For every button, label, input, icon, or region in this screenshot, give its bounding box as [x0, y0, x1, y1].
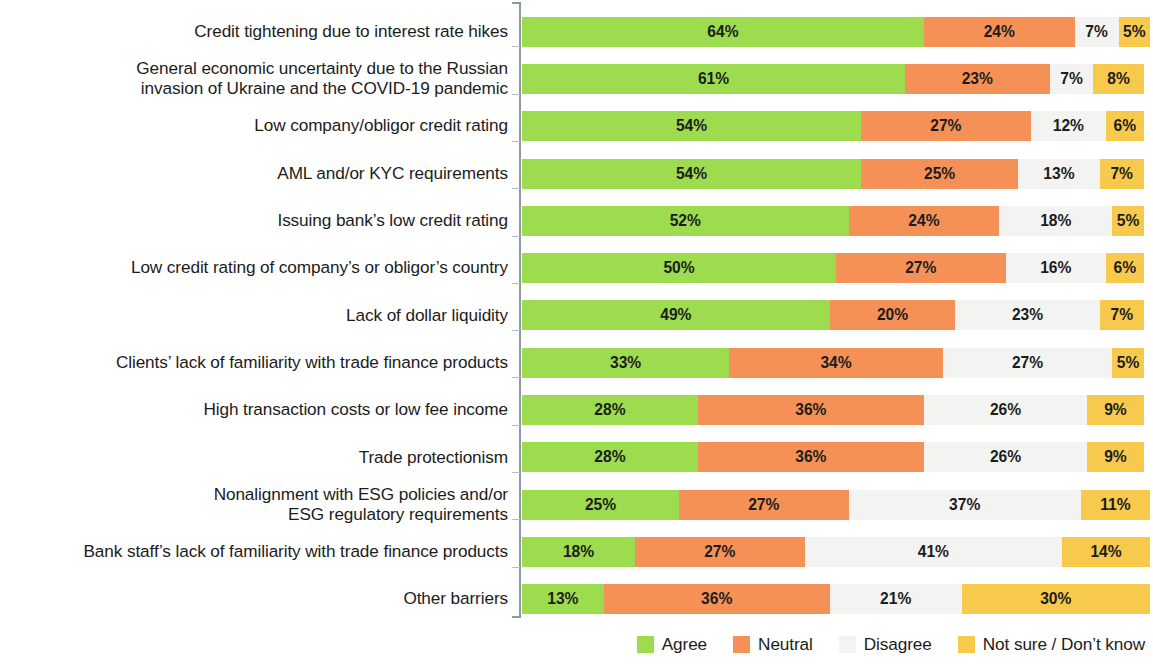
segment-value-label: 9%	[1104, 448, 1127, 466]
segment-value-label: 11%	[1100, 496, 1130, 514]
segment-value-label: 5%	[1117, 354, 1140, 372]
bar-segment-agree: 25%	[522, 490, 679, 520]
segment-value-label: 25%	[585, 496, 616, 514]
chart-row: Low company/obligor credit rating54%27%1…	[0, 103, 1153, 150]
bar-segment-not-sure-don-t-know: 5%	[1112, 206, 1143, 236]
segment-value-label: 8%	[1107, 70, 1130, 88]
segment-value-label: 18%	[563, 543, 594, 561]
segment-value-label: 13%	[547, 590, 578, 608]
chart-row: General economic uncertainty due to the …	[0, 55, 1153, 102]
category-label: Credit tightening due to interest rate h…	[10, 22, 508, 42]
segment-value-label: 9%	[1104, 401, 1127, 419]
segment-value-label: 27%	[704, 543, 735, 561]
stacked-bar: 13%36%21%30%	[522, 584, 1150, 614]
segment-value-label: 26%	[990, 401, 1021, 419]
segment-value-label: 37%	[949, 496, 980, 514]
bar-segment-not-sure-don-t-know: 14%	[1062, 537, 1150, 567]
square-swatch-icon	[733, 636, 750, 653]
segment-value-label: 41%	[918, 543, 949, 561]
legend-label: Agree	[662, 634, 707, 655]
bar-segment-disagree: 16%	[1006, 253, 1106, 283]
segment-value-label: 27%	[748, 496, 779, 514]
bar-segment-disagree: 21%	[830, 584, 962, 614]
bar-segment-disagree: 12%	[1031, 111, 1106, 141]
chart-row: Other barriers13%36%21%30%	[0, 576, 1153, 623]
bar-segment-agree: 18%	[522, 537, 635, 567]
segment-value-label: 24%	[908, 212, 939, 230]
chart-row: Low credit rating of company’s or obligo…	[0, 245, 1153, 292]
segment-value-label: 30%	[1040, 590, 1071, 608]
bar-segment-neutral: 27%	[679, 490, 849, 520]
bar-segment-neutral: 36%	[698, 395, 924, 425]
segment-value-label: 54%	[676, 117, 707, 135]
segment-value-label: 7%	[1085, 23, 1108, 41]
category-label: General economic uncertainty due to the …	[10, 59, 508, 98]
segment-value-label: 52%	[670, 212, 701, 230]
axis-tick	[512, 519, 520, 520]
bar-segment-agree: 28%	[522, 395, 698, 425]
axis-tick	[512, 283, 520, 284]
bar-segment-neutral: 27%	[861, 111, 1031, 141]
category-label: Lack of dollar liquidity	[10, 306, 508, 326]
segment-value-label: 27%	[930, 117, 961, 135]
bar-segment-agree: 33%	[522, 348, 729, 378]
legend-item[interactable]: Agree	[637, 634, 707, 655]
segment-value-label: 36%	[701, 590, 732, 608]
bar-segment-disagree: 26%	[924, 395, 1087, 425]
chart-row: Nonalignment with ESG policies and/or ES…	[0, 481, 1153, 528]
legend-label: Disagree	[864, 634, 932, 655]
legend-label: Neutral	[758, 634, 813, 655]
axis-tick	[512, 236, 520, 237]
bar-segment-not-sure-don-t-know: 5%	[1119, 17, 1150, 47]
bar-segment-not-sure-don-t-know: 9%	[1087, 395, 1144, 425]
category-label: Trade protectionism	[10, 448, 508, 468]
chart-row: Credit tightening due to interest rate h…	[0, 8, 1153, 55]
square-swatch-icon	[637, 636, 654, 653]
category-label: AML and/or KYC requirements	[10, 164, 508, 184]
square-swatch-icon	[839, 636, 856, 653]
legend-item[interactable]: Neutral	[733, 634, 813, 655]
axis-tick	[512, 377, 520, 378]
segment-value-label: 64%	[707, 23, 738, 41]
segment-value-label: 61%	[698, 70, 729, 88]
axis-tick	[512, 46, 520, 47]
bar-segment-neutral: 36%	[698, 442, 924, 472]
chart-row: Trade protectionism28%36%26%9%	[0, 434, 1153, 481]
category-label: Other barriers	[10, 589, 508, 609]
plot-area: Credit tightening due to interest rate h…	[0, 0, 1153, 620]
category-label: Low company/obligor credit rating	[10, 116, 508, 136]
legend-item[interactable]: Disagree	[839, 634, 932, 655]
segment-value-label: 28%	[594, 448, 625, 466]
axis-tick	[512, 567, 520, 568]
bar-segment-agree: 52%	[522, 206, 849, 236]
chart-row: Clients’ lack of familiarity with trade …	[0, 339, 1153, 386]
axis-tick	[512, 94, 520, 95]
square-swatch-icon	[958, 636, 975, 653]
bar-segment-neutral: 25%	[861, 159, 1018, 189]
bar-segment-neutral: 20%	[830, 300, 956, 330]
legend-item[interactable]: Not sure / Don’t know	[958, 634, 1145, 655]
bar-segment-disagree: 13%	[1018, 159, 1100, 189]
category-label: Low credit rating of company’s or obligo…	[10, 258, 508, 278]
segment-value-label: 34%	[820, 354, 851, 372]
bar-segment-not-sure-don-t-know: 7%	[1100, 159, 1144, 189]
segment-value-label: 49%	[660, 306, 691, 324]
segment-value-label: 16%	[1040, 259, 1071, 277]
bar-segment-agree: 49%	[522, 300, 830, 330]
bar-segment-not-sure-don-t-know: 30%	[962, 584, 1150, 614]
segment-value-label: 6%	[1114, 117, 1137, 135]
bar-segment-disagree: 7%	[1075, 17, 1119, 47]
bar-segment-not-sure-don-t-know: 6%	[1106, 253, 1144, 283]
segment-value-label: 28%	[594, 401, 625, 419]
axis-tick	[512, 141, 520, 142]
bar-segment-not-sure-don-t-know: 5%	[1112, 348, 1143, 378]
bar-segment-agree: 64%	[522, 17, 924, 47]
stacked-bar: 25%27%37%11%	[522, 490, 1150, 520]
bar-segment-neutral: 23%	[905, 64, 1049, 94]
stacked-bar: 61%23%7%8%	[522, 64, 1150, 94]
stacked-bar: 54%25%13%7%	[522, 159, 1150, 189]
segment-value-label: 7%	[1110, 306, 1133, 324]
stacked-bar: 28%36%26%9%	[522, 395, 1150, 425]
bar-segment-not-sure-don-t-know: 7%	[1100, 300, 1144, 330]
segment-value-label: 7%	[1110, 165, 1133, 183]
